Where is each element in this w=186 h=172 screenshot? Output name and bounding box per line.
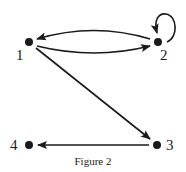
edge-2-to-1 [37,31,150,40]
node-label-3: 3 [166,138,174,153]
figure-caption: Figure 2 [0,155,186,167]
node-label-4: 4 [10,138,18,153]
node-1 [25,38,33,46]
node-4 [25,141,33,149]
edge-1-to-2 [37,46,150,53]
node-2 [154,38,162,46]
graph-diagram [0,0,186,172]
node-label-2: 2 [160,48,168,63]
node-label-1: 1 [16,48,24,63]
edge-2-self-loop [156,14,175,42]
node-3 [153,141,161,149]
edge-1-to-3 [36,48,150,139]
